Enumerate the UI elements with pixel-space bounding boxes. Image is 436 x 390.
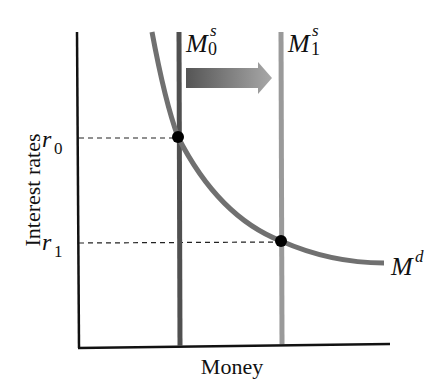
svg-text:M: M xyxy=(390,252,414,281)
r0-label: r 0 xyxy=(42,126,63,158)
money-supply-line-0 xyxy=(179,32,180,346)
x-axis-label: Money xyxy=(201,354,263,379)
money-demand-curve xyxy=(152,32,384,263)
equilibrium-point-0 xyxy=(172,131,184,143)
svg-text:0: 0 xyxy=(208,39,217,59)
y-axis xyxy=(77,32,79,348)
svg-text:r: r xyxy=(42,229,52,255)
svg-text:1: 1 xyxy=(311,39,320,59)
svg-text:0: 0 xyxy=(54,139,63,158)
svg-text:r: r xyxy=(42,126,52,152)
money-supply-label-1: M s 1 xyxy=(287,21,320,59)
svg-text:d: d xyxy=(415,247,424,266)
money-supply-label-0: M s 0 xyxy=(185,21,217,59)
money-demand-label: M d xyxy=(390,247,424,281)
svg-text:1: 1 xyxy=(54,242,63,261)
money-market-diagram: Interest rates Money r 0 r 1 M s 0 M s 1… xyxy=(0,0,436,390)
x-axis xyxy=(78,344,390,348)
svg-text:s: s xyxy=(210,21,217,40)
svg-text:M: M xyxy=(185,29,209,58)
money-supply-line-1 xyxy=(281,32,282,344)
shift-arrow-icon xyxy=(186,62,272,94)
equilibrium-point-1 xyxy=(275,235,287,247)
svg-text:M: M xyxy=(287,29,311,58)
svg-text:s: s xyxy=(312,21,319,40)
r1-label: r 1 xyxy=(42,229,63,261)
